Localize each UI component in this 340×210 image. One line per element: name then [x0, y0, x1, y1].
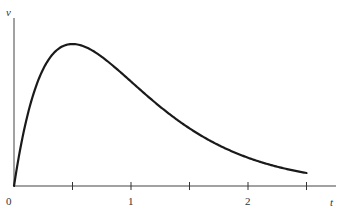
- series-line: [14, 44, 307, 186]
- x-tick-label: 0: [6, 195, 12, 207]
- x-tick-label: 1: [128, 195, 134, 207]
- x-axis-label: t: [330, 196, 334, 208]
- x-tick-labels: 012: [6, 195, 251, 207]
- x-tick-label: 2: [245, 195, 251, 207]
- chart: v t 012: [0, 0, 340, 210]
- y-axis-label: v: [6, 6, 11, 18]
- series-points: [14, 44, 307, 186]
